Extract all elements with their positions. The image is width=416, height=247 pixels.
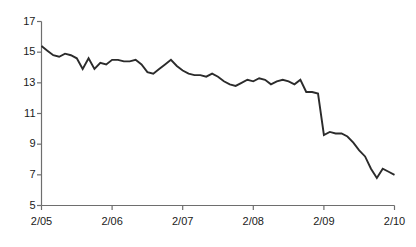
axis-group — [37, 22, 395, 211]
x-tick-label: 2/09 — [302, 215, 346, 227]
y-tick-label: 7 — [10, 168, 36, 180]
chart-plot-area — [0, 0, 416, 247]
x-tick-label: 2/05 — [20, 215, 64, 227]
x-tick-label: 2/06 — [90, 215, 134, 227]
data-line-value — [42, 46, 395, 178]
y-tick-label: 13 — [10, 76, 36, 88]
y-tick-label: 17 — [10, 15, 36, 27]
y-tick-label: 11 — [10, 107, 36, 119]
x-tick-label: 2/10 — [373, 215, 416, 227]
x-tick-label: 2/08 — [231, 215, 275, 227]
x-tick-label: 2/07 — [161, 215, 205, 227]
y-tick-label: 15 — [10, 45, 36, 57]
y-tick-label: 9 — [10, 137, 36, 149]
y-tick-label: 5 — [10, 199, 36, 211]
line-chart: 17151311975 2/052/062/072/082/092/10 — [0, 0, 416, 247]
series-group — [42, 46, 395, 178]
